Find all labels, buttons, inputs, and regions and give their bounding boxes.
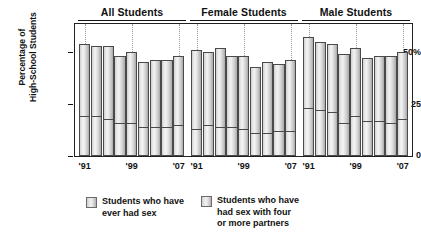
x-tick-label: '07 bbox=[389, 161, 417, 171]
gridline bbox=[403, 24, 404, 52]
plot-baseline bbox=[74, 156, 413, 157]
x-tick-label: '91 bbox=[71, 161, 99, 171]
y-axis-title-line2: High-School Students bbox=[28, 12, 38, 102]
bar bbox=[203, 52, 214, 156]
legend-label-four-or-more: Students who have had sex with four or m… bbox=[217, 195, 299, 230]
legend-item-ever-had-sex: Students who have ever had sex bbox=[86, 196, 194, 219]
bar bbox=[103, 46, 114, 156]
gridline bbox=[244, 24, 245, 56]
bar bbox=[303, 37, 314, 156]
x-tick-label: '99 bbox=[342, 161, 370, 171]
bar bbox=[161, 60, 172, 156]
bar bbox=[315, 42, 326, 156]
bar bbox=[173, 56, 184, 156]
bar-lower-segment bbox=[91, 116, 102, 156]
group-title-rule-all bbox=[78, 20, 186, 21]
bar bbox=[350, 48, 361, 156]
group-title-rule-female bbox=[190, 20, 298, 21]
y-tick-mark-25 bbox=[68, 104, 73, 105]
bar-lower-segment bbox=[79, 116, 90, 156]
group-title-all: All Students bbox=[78, 6, 186, 18]
bar-lower-segment bbox=[150, 127, 161, 156]
bar-lower-segment bbox=[114, 123, 125, 156]
bar bbox=[327, 44, 338, 156]
bar-lower-segment bbox=[226, 127, 237, 156]
bar-lower-segment bbox=[315, 110, 326, 156]
y-tick-mark-50 bbox=[68, 52, 73, 53]
bar-lower-segment bbox=[138, 127, 149, 156]
bar-lower-segment bbox=[215, 127, 226, 156]
bar bbox=[150, 60, 161, 156]
gridline bbox=[85, 24, 86, 44]
legend-swatch-ever-had-sex bbox=[86, 197, 97, 208]
bar bbox=[191, 50, 202, 156]
bar bbox=[374, 56, 385, 156]
group-title-male: Male Students bbox=[302, 6, 410, 18]
gridline bbox=[291, 24, 292, 60]
gridline bbox=[356, 24, 357, 48]
x-tick-label: '99 bbox=[230, 161, 258, 171]
bar bbox=[215, 48, 226, 156]
bar-lower-segment bbox=[191, 129, 202, 156]
bar bbox=[114, 56, 125, 156]
gridline bbox=[197, 24, 198, 50]
bar-lower-segment bbox=[374, 121, 385, 156]
bar bbox=[126, 52, 137, 156]
bar bbox=[79, 44, 90, 156]
bar bbox=[250, 67, 261, 156]
x-tick-label: '99 bbox=[118, 161, 146, 171]
bar-lower-segment bbox=[273, 131, 284, 156]
y-tick-mark-0 bbox=[68, 156, 73, 157]
bar bbox=[362, 58, 373, 156]
bar-lower-segment bbox=[238, 129, 249, 156]
bar bbox=[285, 60, 296, 156]
bar bbox=[338, 54, 349, 156]
bar bbox=[397, 52, 408, 156]
bar-lower-segment bbox=[250, 133, 261, 156]
bar-lower-segment bbox=[397, 119, 408, 156]
chart-figure: Percentage of High-School Students 50% 2… bbox=[0, 0, 421, 239]
bar bbox=[238, 56, 249, 156]
legend-item-four-or-more: Students who have had sex with four or m… bbox=[201, 195, 331, 230]
bar-lower-segment bbox=[385, 123, 396, 156]
y-axis-title-line1: Percentage of bbox=[17, 29, 27, 86]
bar-lower-segment bbox=[203, 125, 214, 156]
bar bbox=[262, 62, 273, 156]
bar bbox=[385, 56, 396, 156]
bar bbox=[138, 62, 149, 156]
bar-lower-segment bbox=[173, 125, 184, 156]
bar bbox=[273, 64, 284, 156]
group-title-rule-male bbox=[302, 20, 410, 21]
y-axis-title: Percentage of High-School Students bbox=[17, 0, 39, 116]
gridline bbox=[309, 24, 310, 37]
bar-lower-segment bbox=[303, 108, 314, 156]
legend-label-ever-had-sex: Students who have ever had sex bbox=[102, 196, 184, 219]
bar-lower-segment bbox=[350, 116, 361, 156]
x-tick-label: '91 bbox=[183, 161, 211, 171]
gridline bbox=[132, 24, 133, 52]
bar-lower-segment bbox=[126, 123, 137, 156]
bar-lower-segment bbox=[338, 123, 349, 156]
bar bbox=[226, 56, 237, 156]
gridline bbox=[179, 24, 180, 56]
bar-lower-segment bbox=[103, 119, 114, 156]
legend-swatch-four-or-more bbox=[201, 196, 212, 207]
bar-lower-segment bbox=[161, 127, 172, 156]
bar-lower-segment bbox=[262, 133, 273, 156]
bar-lower-segment bbox=[327, 112, 338, 156]
bar bbox=[91, 46, 102, 156]
x-tick-label: '91 bbox=[295, 161, 323, 171]
bar-lower-segment bbox=[362, 121, 373, 156]
bar-lower-segment bbox=[285, 131, 296, 156]
group-title-female: Female Students bbox=[190, 6, 298, 18]
